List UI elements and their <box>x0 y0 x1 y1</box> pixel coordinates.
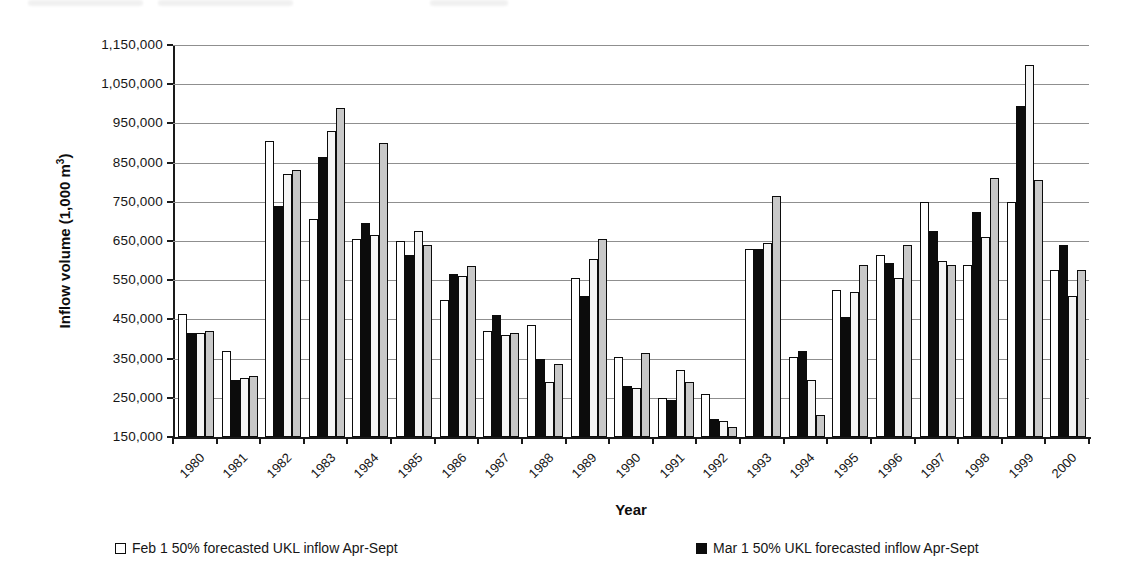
bar-feb-forecast <box>745 249 754 437</box>
y-axis-tick-label: 1,050,000 <box>88 76 163 91</box>
x-axis-year-label: 1999 <box>983 450 1036 503</box>
y-axis-tick <box>167 279 173 281</box>
bar-series3 <box>850 292 859 437</box>
bar-series3 <box>981 237 990 437</box>
bar-feb-forecast <box>832 290 841 437</box>
y-axis-tick-label: 350,000 <box>88 351 163 366</box>
x-axis-tick <box>216 438 218 444</box>
scan-artifact <box>430 0 508 6</box>
x-axis-year-label: 1985 <box>372 450 425 503</box>
bar-series3 <box>240 378 249 437</box>
bar-mar-forecast <box>972 212 981 437</box>
y-axis-title-superscript: 3 <box>55 159 66 165</box>
bar-mar-forecast <box>449 274 458 437</box>
x-axis-tick <box>1088 438 1090 444</box>
x-axis-tick <box>957 438 959 444</box>
legend-label-feb: Feb 1 50% forecasted UKL inflow Apr-Sept <box>132 540 398 556</box>
bar-mar-forecast <box>580 296 589 437</box>
bar-feb-forecast <box>614 357 623 437</box>
x-axis-year-label: 1982 <box>242 450 295 503</box>
gridline <box>173 45 1089 46</box>
x-axis-year-label: 1990 <box>591 450 644 503</box>
y-axis-tick <box>167 318 173 320</box>
bar-feb-forecast <box>963 265 972 437</box>
bar-series3 <box>676 370 685 437</box>
x-axis-year-label: 1998 <box>940 450 993 503</box>
bar-series4 <box>641 353 650 437</box>
bar-series4 <box>903 245 912 437</box>
x-axis-tick <box>783 438 785 444</box>
bar-feb-forecast <box>352 239 361 437</box>
y-axis-tick <box>167 358 173 360</box>
x-axis-year-label: 1995 <box>809 450 862 503</box>
y-axis-tick <box>167 201 173 203</box>
x-axis-tick <box>695 438 697 444</box>
x-axis-year-label: 1986 <box>416 450 469 503</box>
y-axis-tick-label: 650,000 <box>88 233 163 248</box>
bar-mar-forecast <box>187 333 196 437</box>
bar-mar-forecast <box>1059 245 1068 437</box>
bar-mar-forecast <box>231 380 240 437</box>
y-axis-tick-label: 550,000 <box>88 272 163 287</box>
figure-bar-chart: { "figure": { "y_axis_title": { "prefix"… <box>0 0 1139 576</box>
bar-series4 <box>379 143 388 437</box>
x-axis-tick <box>346 438 348 444</box>
bar-feb-forecast <box>265 141 274 437</box>
x-axis-tick <box>652 438 654 444</box>
bar-series3 <box>807 380 816 437</box>
x-axis-tick <box>434 438 436 444</box>
bar-mar-forecast <box>536 359 545 437</box>
y-axis-tick <box>167 122 173 124</box>
x-axis-tick <box>870 438 872 444</box>
bar-mar-forecast <box>405 255 414 437</box>
bar-feb-forecast <box>571 278 580 437</box>
bar-series3 <box>894 278 903 437</box>
x-axis-tick <box>303 438 305 444</box>
bar-mar-forecast <box>929 231 938 437</box>
y-axis-title-suffix: ) <box>56 154 73 159</box>
legend-label-mar: Mar 1 50% UKL forecasted inflow Apr-Sept <box>713 540 979 556</box>
x-axis-tick <box>914 438 916 444</box>
bar-feb-forecast <box>222 351 231 437</box>
gridline <box>173 202 1089 203</box>
bar-feb-forecast <box>1050 270 1059 437</box>
bar-mar-forecast <box>361 223 370 437</box>
bar-series4 <box>554 364 563 437</box>
bar-series4 <box>292 170 301 437</box>
bar-series3 <box>370 235 379 437</box>
bar-series4 <box>728 427 737 437</box>
bar-series4 <box>205 331 214 437</box>
bar-feb-forecast <box>396 241 405 437</box>
bar-mar-forecast <box>841 317 850 437</box>
bar-series4 <box>467 266 476 437</box>
legend-entry-mar: Mar 1 50% UKL forecasted inflow Apr-Sept <box>696 540 979 556</box>
bar-series3 <box>501 335 510 437</box>
bar-series4 <box>859 265 868 437</box>
bar-feb-forecast <box>789 357 798 437</box>
x-axis-tick <box>826 438 828 444</box>
bar-feb-forecast <box>309 219 318 437</box>
bar-series3 <box>1068 296 1077 437</box>
bar-series3 <box>458 276 467 437</box>
bar-mar-forecast <box>318 157 327 437</box>
y-axis-tick <box>167 397 173 399</box>
y-axis-tick-label: 950,000 <box>88 115 163 130</box>
bar-series4 <box>510 333 519 437</box>
bar-series3 <box>196 333 205 437</box>
y-axis-tick-label: 850,000 <box>88 155 163 170</box>
x-axis-year-label: 1994 <box>765 450 818 503</box>
x-axis-tick <box>1044 438 1046 444</box>
y-axis-tick-label: 1,150,000 <box>88 37 163 52</box>
bar-feb-forecast <box>483 331 492 437</box>
bar-series4 <box>1034 180 1043 437</box>
x-axis-tick <box>477 438 479 444</box>
bar-mar-forecast <box>710 419 719 437</box>
scan-artifact <box>28 0 143 6</box>
y-axis-title-text: Inflow volume (1,000 m <box>56 164 73 328</box>
bar-feb-forecast <box>701 394 710 437</box>
x-axis-tick <box>1001 438 1003 444</box>
bar-feb-forecast <box>440 300 449 437</box>
x-axis-tick <box>521 438 523 444</box>
bar-mar-forecast <box>492 315 501 437</box>
bar-series3 <box>1025 65 1034 437</box>
